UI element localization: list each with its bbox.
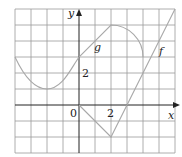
y-axis-arrow-icon [76,9,82,16]
y-tick-label: 2 [82,67,89,80]
x-tick-label: 2 [107,107,114,120]
grid [15,9,175,153]
x-axis-label: x [168,109,175,122]
y-axis-label: y [67,7,75,20]
x-axis-arrow-icon [173,102,180,108]
curve-g-label: g [94,41,101,54]
function-graph: y x g f 2 0 2 [0,0,182,157]
curve-f-label: f [158,45,165,58]
origin-label: 0 [70,107,77,120]
